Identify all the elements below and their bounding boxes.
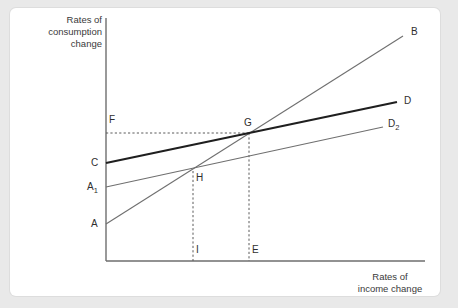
point-label-e: E (252, 244, 259, 255)
point-label-i: I (196, 244, 199, 255)
point-label-d: D (404, 95, 411, 106)
point-label-a1: A1 (87, 181, 98, 192)
x-axis-label: Rates of income change (336, 271, 444, 295)
point-label-a1-letter: A (87, 181, 94, 192)
figure-root: Rates of consumption change Rates of inc… (0, 0, 458, 308)
point-label-b: B (411, 26, 418, 37)
point-label-c: C (91, 157, 98, 168)
point-label-d2-subscript: 2 (395, 123, 399, 132)
point-label-d2: D2 (388, 118, 399, 129)
y-axis-label: Rates of consumption change (28, 14, 102, 50)
point-label-g: G (244, 117, 252, 128)
point-label-f: F (109, 114, 115, 125)
point-label-h: H (196, 172, 203, 183)
point-label-a: A (91, 218, 98, 229)
line-ab (106, 36, 403, 224)
line-cd (106, 102, 397, 163)
point-label-a1-subscript: 1 (94, 186, 98, 195)
